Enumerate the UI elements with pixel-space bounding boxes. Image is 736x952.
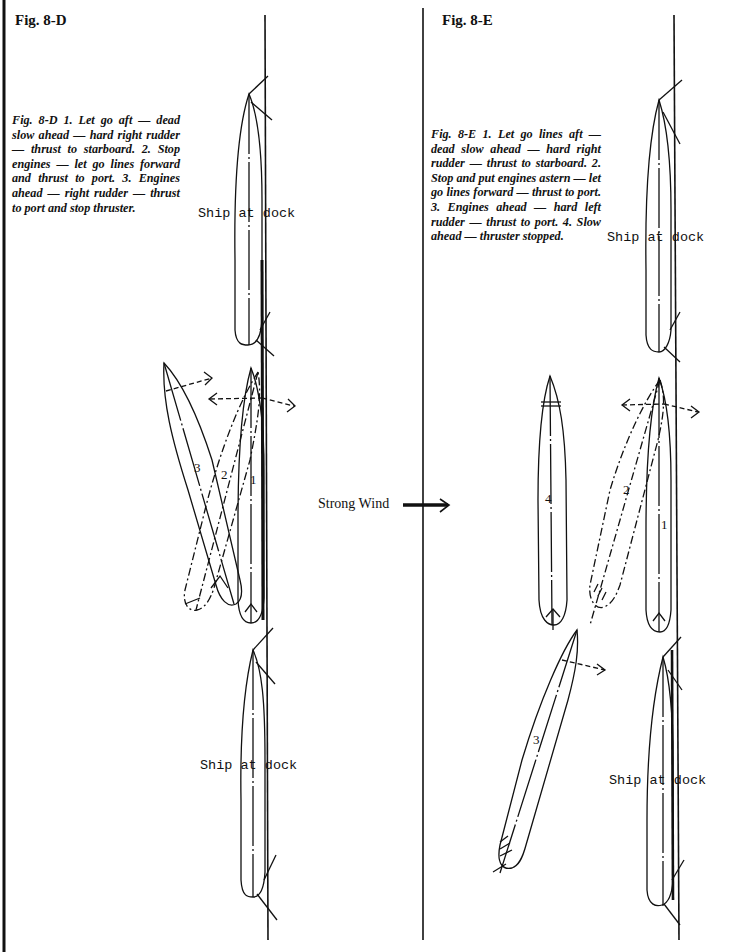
- ship-position-4-8e: [538, 376, 567, 630]
- caption-8e: Fig. 8-E 1. Let go lines aft — dead slow…: [431, 127, 601, 244]
- ship-label-top-8d: Ship at dock: [198, 206, 295, 221]
- wind-label: Strong Wind: [318, 496, 389, 512]
- ship-top-8e: [646, 80, 682, 362]
- wind-arrow-icon: [403, 499, 449, 512]
- ship-bottom-8d: [241, 628, 277, 920]
- ship-position-2-8d: [184, 372, 259, 610]
- dock-line-8e: [674, 15, 679, 940]
- ship-position-2-8e: [590, 380, 664, 625]
- ship-label-top-8e: Ship at dock: [607, 230, 704, 245]
- position-number-1-8d: 1: [250, 472, 257, 488]
- ship-position-3-8e: [493, 630, 578, 873]
- position-number-3-8e: 3: [533, 732, 540, 748]
- position-number-3-8d: 3: [194, 460, 201, 476]
- ship-position-1-8d: [238, 368, 264, 623]
- position-number-4-8e: 4: [545, 491, 552, 507]
- thrust-arrow-port-8e: [622, 404, 664, 405]
- position-number-1-8e: 1: [661, 517, 668, 533]
- figure-title-8e: Fig. 8-E: [442, 12, 493, 29]
- ship-position-3-8d: [164, 363, 242, 605]
- figure-title-8d: Fig. 8-D: [15, 12, 67, 29]
- ship-label-bottom-8e: Ship at dock: [609, 773, 706, 788]
- position-number-2-8e: 2: [623, 482, 630, 498]
- caption-8d: Fig. 8-D 1. Let go aft — dead slow ahead…: [12, 113, 180, 215]
- thrust-arrow-port-8d: [210, 398, 262, 399]
- ship-label-bottom-8d: Ship at dock: [200, 758, 297, 773]
- position-number-2-8d: 2: [221, 467, 228, 483]
